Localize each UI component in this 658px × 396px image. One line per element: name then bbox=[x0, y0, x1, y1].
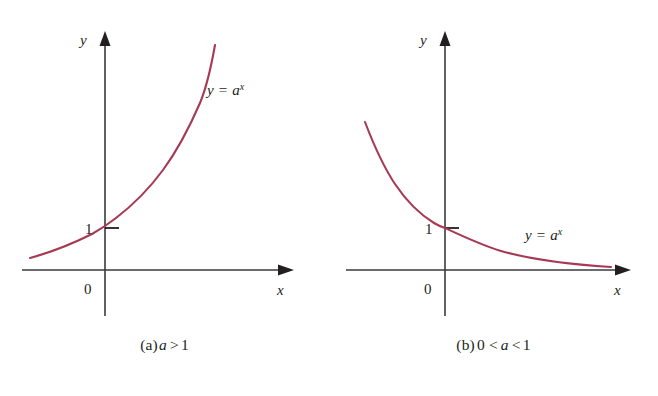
x-axis-label-a: x bbox=[276, 282, 284, 298]
caption-b-lower: 0 bbox=[475, 336, 487, 353]
x-axis-label-b: x bbox=[613, 282, 621, 298]
svg-text:y=ax: y=ax bbox=[523, 226, 563, 243]
curve-label-b-equals: = bbox=[537, 227, 545, 243]
caption-a-value: 1 bbox=[181, 336, 189, 353]
svg-text:y=ax: y=ax bbox=[205, 81, 245, 98]
curve-exponential-growth bbox=[30, 45, 215, 258]
caption-a-prefix: (a) bbox=[140, 336, 158, 353]
curve-label-b-exponent: x bbox=[557, 226, 563, 237]
panel-b-decreasing-exponential: y x 0 1 y=ax (b)0<a<1 bbox=[329, 0, 658, 396]
origin-label-a: 0 bbox=[84, 281, 92, 297]
curve-label-a-lhs: y bbox=[205, 82, 214, 98]
caption-a-variable: a bbox=[158, 336, 168, 353]
caption-b-prefix: (b) bbox=[456, 336, 475, 353]
caption-b-variable: a bbox=[500, 336, 510, 353]
exponential-functions-figure: y x 0 1 y=ax (a)a>1 bbox=[0, 0, 658, 396]
caption-b-value: 1 bbox=[523, 336, 531, 353]
plot-a: y x 0 1 y=ax bbox=[0, 0, 329, 330]
y-axis-label-b: y bbox=[418, 32, 427, 48]
panel-a-increasing-exponential: y x 0 1 y=ax (a)a>1 bbox=[0, 0, 329, 396]
origin-label-b: 0 bbox=[424, 281, 432, 297]
plot-b: y x 0 1 y=ax bbox=[329, 0, 658, 330]
y-axis-a bbox=[100, 31, 111, 316]
curve-label-a: y=ax bbox=[205, 81, 245, 98]
caption-b-operator-left: < bbox=[487, 336, 500, 353]
x-axis-a bbox=[22, 265, 294, 276]
caption-a-operator: > bbox=[168, 336, 181, 353]
y-tick-label-one-b: 1 bbox=[425, 221, 433, 237]
y-tick-label-one-a: 1 bbox=[85, 221, 93, 237]
curve-exponential-decay bbox=[365, 122, 611, 267]
caption-a: (a)a>1 bbox=[0, 336, 329, 354]
caption-b-operator-right: < bbox=[510, 336, 523, 353]
curve-label-b-lhs: y bbox=[523, 227, 532, 243]
curve-label-a-exponent: x bbox=[239, 81, 245, 92]
curve-label-b: y=ax bbox=[523, 226, 563, 243]
y-axis-label-a: y bbox=[78, 32, 87, 48]
curve-label-a-equals: = bbox=[219, 82, 227, 98]
curve-label-a-base: a bbox=[232, 82, 240, 98]
y-axis-b bbox=[440, 31, 451, 316]
curve-label-b-base: a bbox=[550, 227, 558, 243]
caption-b: (b)0<a<1 bbox=[329, 336, 658, 354]
